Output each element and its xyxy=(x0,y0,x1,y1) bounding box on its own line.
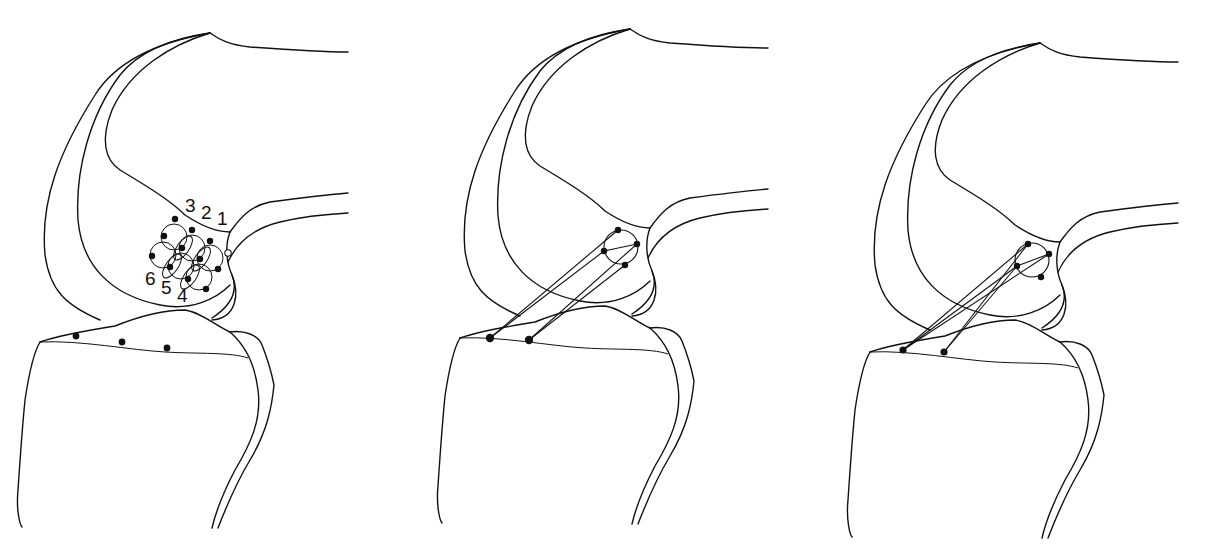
label-1: 1 xyxy=(217,208,228,229)
ligament-lines xyxy=(903,244,1049,352)
label-3: 3 xyxy=(185,195,196,216)
panel-3 xyxy=(847,43,1178,538)
grid-number-labels: 3 2 1 6 5 4 xyxy=(145,195,228,306)
label-4: 4 xyxy=(177,285,188,306)
label-6: 6 xyxy=(145,268,156,289)
open-marker xyxy=(225,250,231,256)
label-5: 5 xyxy=(161,277,172,298)
label-2: 2 xyxy=(201,202,212,223)
tibial-attachment-dots xyxy=(73,333,171,352)
knee-diagram-figure: 3 2 1 6 5 4 xyxy=(0,0,1207,555)
tibial-dots xyxy=(486,334,533,344)
panel-1: 3 2 1 6 5 4 xyxy=(17,33,348,528)
panel-2 xyxy=(437,29,768,524)
ligament-lines xyxy=(490,230,637,340)
